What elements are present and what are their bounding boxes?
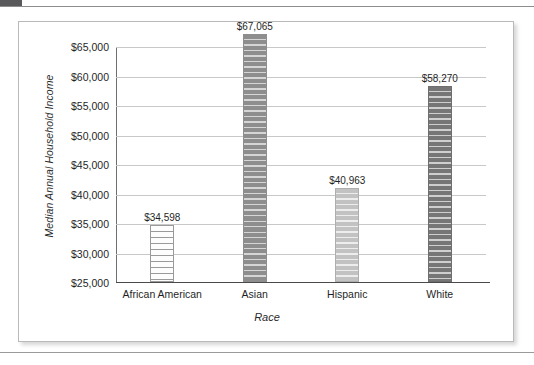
y-axis-tick-label: $35,000 — [71, 218, 109, 230]
bar-group: $40,963 — [320, 188, 374, 282]
bar-group: $67,065 — [228, 34, 282, 282]
page-rule-bottom — [0, 352, 534, 353]
y-axis-tick-label: $25,000 — [71, 277, 109, 289]
bar-value-label: $34,598 — [144, 212, 180, 223]
x-axis-tick-label: White — [385, 288, 495, 300]
bar-asian[interactable]: $67,065 — [243, 34, 267, 282]
y-axis-tick-label: $60,000 — [71, 71, 109, 83]
y-axis-title: Median Annual Household Income — [43, 51, 55, 261]
bar-white[interactable]: $58,270 — [428, 86, 452, 282]
page-rule-top — [0, 6, 534, 7]
y-axis-tick-label: $50,000 — [71, 130, 109, 142]
y-axis-tick-label: $30,000 — [71, 248, 109, 260]
bar-group: $58,270 — [413, 86, 467, 282]
x-axis-line — [116, 282, 490, 283]
chart-figure: Median Annual Household Income $25,000$3… — [18, 21, 514, 342]
bar-value-label: $40,963 — [329, 175, 365, 186]
bar-african-american[interactable]: $34,598 — [150, 225, 174, 282]
y-axis-tick-label: $40,000 — [71, 189, 109, 201]
plot-area: $25,000$30,000$35,000$40,000$45,000$50,0… — [116, 47, 486, 283]
y-axis-tick-label: $45,000 — [71, 159, 109, 171]
bar-group: $34,598 — [135, 225, 189, 282]
bar-value-label: $58,270 — [422, 73, 458, 84]
bar-hispanic[interactable]: $40,963 — [335, 188, 359, 282]
gridline — [116, 47, 486, 48]
y-axis-tick-label: $55,000 — [71, 100, 109, 112]
y-axis-tick-label: $65,000 — [71, 41, 109, 53]
x-axis-title: Race — [19, 311, 515, 323]
bar-value-label: $67,065 — [237, 21, 273, 32]
